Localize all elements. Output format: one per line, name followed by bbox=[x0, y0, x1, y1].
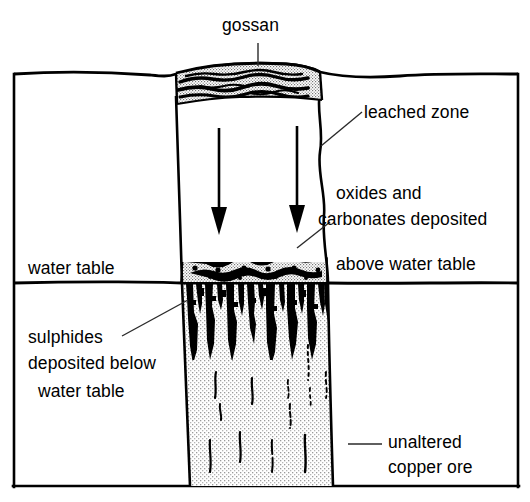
leader-sulphides bbox=[122, 300, 188, 336]
label-sulphides-line3: water table bbox=[38, 379, 125, 403]
water-table-line bbox=[14, 282, 518, 283]
label-oxides-line2: carbonates deposited bbox=[318, 207, 487, 231]
geological-cross-section-diagram bbox=[0, 0, 530, 502]
label-water-table: water table bbox=[28, 256, 115, 280]
label-oxides-line3: above water table bbox=[336, 252, 476, 276]
diagram-page: gossan leached zone oxides and carbonate… bbox=[0, 0, 530, 502]
label-unaltered-line2: copper ore bbox=[388, 455, 473, 479]
label-gossan: gossan bbox=[222, 13, 279, 37]
leader-leached-zone bbox=[321, 112, 362, 146]
label-sulphides-line1: sulphides bbox=[28, 325, 103, 349]
label-leached-zone: leached zone bbox=[364, 100, 469, 124]
gossan-cap bbox=[176, 63, 322, 104]
leached-zone bbox=[176, 92, 328, 283]
label-oxides-line1: oxides and bbox=[336, 181, 422, 205]
label-sulphides-line2: deposited below bbox=[28, 351, 156, 375]
label-unaltered-line1: unaltered bbox=[388, 430, 462, 454]
